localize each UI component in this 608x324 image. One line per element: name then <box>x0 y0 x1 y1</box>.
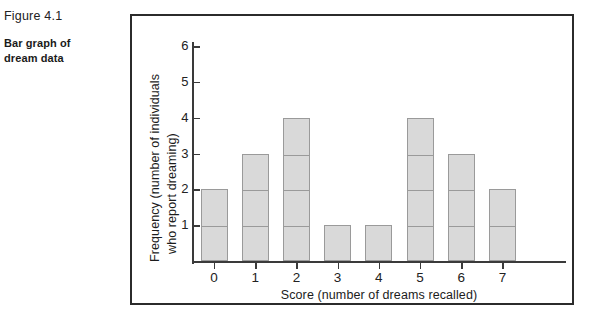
x-tick-label: 4 <box>359 270 399 286</box>
y-tick: 2 <box>194 189 200 190</box>
x-tick-mark <box>255 263 256 269</box>
bar <box>283 118 310 261</box>
bar <box>448 154 475 261</box>
x-tick-mark <box>296 263 297 269</box>
y-tick-mark <box>194 118 200 119</box>
y-tick: 3 <box>194 154 200 155</box>
bar-unit-divider <box>407 190 434 191</box>
bar <box>201 189 228 261</box>
y-axis-title: Frequency (number of individuals who rep… <box>134 34 190 264</box>
x-tick-label: 6 <box>441 270 481 286</box>
x-tick-mark <box>338 263 339 269</box>
bar-unit-divider <box>407 155 434 156</box>
bar-unit-divider <box>283 226 310 227</box>
bar <box>365 225 392 261</box>
x-tick-label: 7 <box>482 270 522 286</box>
bar-unit-divider <box>242 190 269 191</box>
bar-unit-divider <box>283 155 310 156</box>
figure-caption: Figure 4.1 Bar graph of dream data <box>4 8 124 65</box>
bar-chart-plot: 123456 01234567 Score (number of dreams … <box>132 16 572 303</box>
figure-description-line-2: dream data <box>4 51 124 66</box>
bar-unit-divider <box>448 226 475 227</box>
bar <box>407 118 434 261</box>
y-tick: 1 <box>194 225 200 226</box>
x-tick-mark <box>461 263 462 269</box>
x-tick-label: 5 <box>400 270 440 286</box>
bar-unit-divider <box>201 226 228 227</box>
x-tick-mark <box>214 263 215 269</box>
y-tick: 4 <box>194 118 200 119</box>
figure-description: Bar graph of dream data <box>4 36 124 65</box>
y-tick-mark <box>194 46 200 47</box>
x-tick-label: 0 <box>194 270 234 286</box>
y-tick-mark <box>194 154 200 155</box>
x-tick-label: 2 <box>276 270 316 286</box>
figure-description-line-1: Bar graph of <box>4 36 124 51</box>
bar-unit-divider <box>283 190 310 191</box>
bar-unit-divider <box>448 190 475 191</box>
x-tick-mark <box>420 263 421 269</box>
bar-unit-divider <box>242 226 269 227</box>
x-tick-label: 1 <box>235 270 275 286</box>
y-tick-mark <box>194 82 200 83</box>
y-tick: 5 <box>194 82 200 83</box>
x-tick-mark <box>502 263 503 269</box>
bar <box>242 154 269 261</box>
bar-unit-divider <box>489 226 516 227</box>
figure-frame: 123456 01234567 Score (number of dreams … <box>130 14 574 305</box>
y-tick-mark <box>194 225 200 226</box>
bar <box>489 189 516 261</box>
bar-unit-divider <box>407 226 434 227</box>
figure-number: Figure 4.1 <box>4 8 124 24</box>
x-tick-mark <box>379 263 380 269</box>
x-axis-title: Score (number of dreams recalled) <box>192 288 566 303</box>
y-tick: 6 <box>194 46 200 47</box>
y-tick-mark <box>194 189 200 190</box>
x-tick-label: 3 <box>318 270 358 286</box>
y-axis-title-line-2: who report dreaming) <box>165 133 179 254</box>
y-axis-title-line-1: Frequency (number of individuals <box>148 74 162 262</box>
bar <box>324 225 351 261</box>
